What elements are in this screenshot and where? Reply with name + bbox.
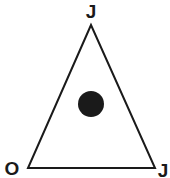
- vertex-label-bottom-right: J: [158, 160, 169, 178]
- vertex-label-top: J: [86, 1, 97, 22]
- triangle-diagram: J O J: [0, 0, 170, 178]
- vertex-label-bottom-left: O: [5, 158, 20, 178]
- center-dot: [78, 91, 104, 117]
